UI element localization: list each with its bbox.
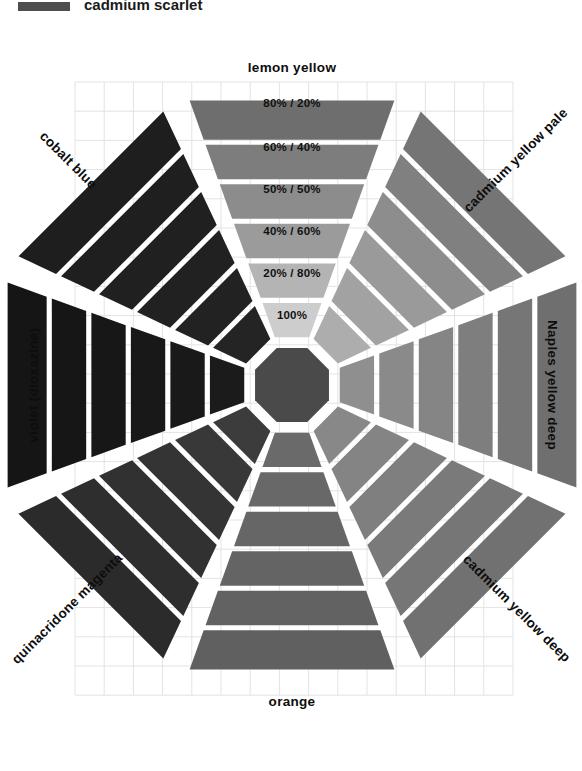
wedge-naples-yellow-deep-step-3 bbox=[419, 327, 453, 443]
arm-label-lemon-yellow: lemon yellow bbox=[248, 60, 337, 75]
color-wheel-figure: 100%20% / 80%40% / 60%50% / 50%60% / 40%… bbox=[0, 0, 582, 771]
wedge-orange-step-2 bbox=[248, 472, 336, 506]
ratio-label-6: 80% / 20% bbox=[263, 97, 320, 109]
ratio-label-3: 40% / 60% bbox=[263, 225, 320, 237]
wedge-naples-yellow-deep-step-4 bbox=[458, 313, 492, 457]
center-mixed-swatch bbox=[255, 348, 329, 422]
wedge-violet-dioxazine-step-4 bbox=[91, 313, 125, 457]
color-wheel-svg: 100%20% / 80%40% / 60%50% / 50%60% / 40%… bbox=[0, 0, 582, 771]
ratio-label-2: 20% / 80% bbox=[263, 267, 320, 279]
wedge-naples-yellow-deep-step-2 bbox=[379, 341, 413, 429]
ratio-label-1: 100% bbox=[277, 309, 307, 321]
wedge-naples-yellow-deep-step-5 bbox=[498, 299, 532, 472]
arm-label-violet-dioxazine: violet (dioxazine) bbox=[26, 328, 41, 443]
wedge-violet-dioxazine-step-5 bbox=[52, 299, 86, 472]
arm-label-orange: orange bbox=[269, 694, 316, 709]
ratio-label-4: 50% / 50% bbox=[263, 183, 320, 195]
wedge-orange-step-3 bbox=[234, 512, 350, 546]
center-octagon bbox=[255, 348, 329, 422]
legend-color-swatch bbox=[18, 2, 70, 11]
wedge-orange-step-5 bbox=[206, 591, 379, 625]
wedge-orange-step-6 bbox=[190, 630, 395, 669]
ratio-label-5: 60% / 40% bbox=[263, 141, 320, 153]
wedge-violet-dioxazine-step-2 bbox=[170, 341, 204, 429]
wedge-violet-dioxazine-step-3 bbox=[131, 327, 165, 443]
arm-label-naples-yellow-deep: Naples yellow deep bbox=[545, 320, 560, 450]
wedge-orange-step-4 bbox=[220, 551, 364, 585]
legend-label: cadmium scarlet bbox=[84, 0, 202, 13]
